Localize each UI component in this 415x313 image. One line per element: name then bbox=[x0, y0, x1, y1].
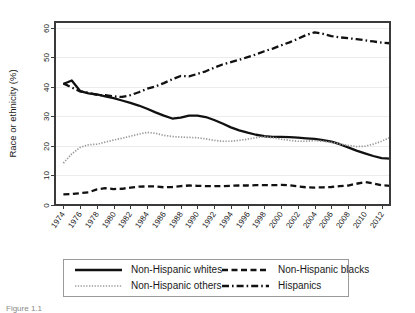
x-axis-tick-label: 2000 bbox=[267, 210, 285, 230]
y-axis-tick-label: 10 bbox=[42, 171, 51, 180]
x-axis-tick-label: 2008 bbox=[334, 210, 352, 230]
legend-label: Non-Hispanic blacks bbox=[278, 264, 369, 275]
x-axis-tick-label: 1980 bbox=[100, 210, 118, 230]
legend-label: Hispanics bbox=[278, 280, 321, 291]
x-axis: 1974197619781980198219841986198819901992… bbox=[49, 205, 386, 230]
x-axis-tick-label: 1986 bbox=[150, 210, 168, 230]
y-axis-tick-label: 30 bbox=[42, 112, 51, 121]
plot-background bbox=[55, 22, 390, 205]
race-ethnicity-line-chart: 0102030405060 19741976197819801982198419… bbox=[0, 0, 415, 313]
x-axis-tick-label: 1982 bbox=[116, 210, 134, 230]
x-axis-tick-label: 2004 bbox=[301, 210, 319, 230]
legend-label: Non-Hispanic whites bbox=[131, 264, 222, 275]
y-axis: 0102030405060 bbox=[42, 24, 55, 208]
y-axis-title: Race or ethnicity (%) bbox=[7, 69, 18, 157]
x-axis-tick-label: 2002 bbox=[284, 210, 302, 230]
y-axis-tick-label: 60 bbox=[42, 24, 51, 33]
figure-container: 0102030405060 19741976197819801982198419… bbox=[0, 0, 415, 313]
x-axis-tick-label: 1974 bbox=[49, 210, 67, 230]
x-axis-tick-label: 2010 bbox=[351, 210, 369, 230]
y-axis-tick-label: 0 bbox=[42, 203, 51, 208]
x-axis-tick-label: 1976 bbox=[66, 210, 84, 230]
legend-label: Non-Hispanic others bbox=[131, 280, 222, 291]
x-axis-tick-label: 1990 bbox=[183, 210, 201, 230]
x-axis-tick-label: 1988 bbox=[167, 210, 185, 230]
x-axis-tick-label: 1996 bbox=[234, 210, 252, 230]
figure-caption: Figure 1.1 bbox=[6, 304, 43, 313]
chart-legend: Non-Hispanic whitesNon-Hispanic blacksNo… bbox=[63, 259, 369, 296]
x-axis-tick-label: 1992 bbox=[200, 210, 218, 230]
y-axis-tick-label: 40 bbox=[42, 83, 51, 92]
x-axis-tick-label: 1978 bbox=[83, 210, 101, 230]
x-axis-tick-label: 1984 bbox=[133, 210, 151, 230]
x-axis-tick-label: 1994 bbox=[217, 210, 235, 230]
y-axis-tick-label: 50 bbox=[42, 53, 51, 62]
y-axis-tick-label: 20 bbox=[42, 142, 51, 151]
x-axis-tick-label: 2006 bbox=[317, 210, 335, 230]
x-axis-tick-label: 2012 bbox=[368, 210, 386, 230]
x-axis-tick-label: 1998 bbox=[250, 210, 268, 230]
